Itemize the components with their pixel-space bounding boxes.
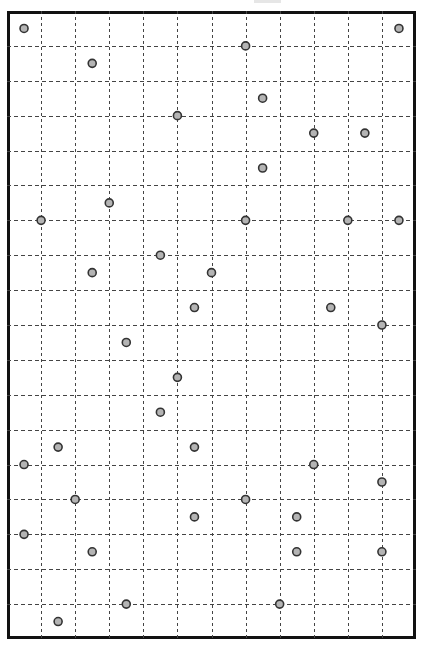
data-point [310, 129, 318, 137]
data-point [395, 216, 403, 224]
top-bar-artifact [254, 0, 281, 3]
data-point [54, 618, 62, 626]
data-point [156, 251, 164, 259]
data-point [259, 164, 267, 172]
grid-lines [7, 11, 416, 639]
data-point [190, 443, 198, 451]
data-point [173, 112, 181, 120]
scatter-plot-area [7, 11, 416, 639]
data-point [190, 513, 198, 521]
data-point [20, 530, 28, 538]
data-point [20, 461, 28, 469]
data-point [310, 461, 318, 469]
data-point [395, 24, 403, 32]
data-point [293, 513, 301, 521]
data-point [344, 216, 352, 224]
data-point [88, 59, 96, 67]
data-point [327, 304, 335, 312]
data-point [20, 24, 28, 32]
data-point [293, 548, 301, 556]
data-point [242, 495, 250, 503]
data-point [259, 94, 267, 102]
data-point [242, 42, 250, 50]
data-point [242, 216, 250, 224]
data-point [122, 600, 130, 608]
data-point [88, 269, 96, 277]
data-point [54, 443, 62, 451]
data-point [208, 269, 216, 277]
data-point [378, 548, 386, 556]
data-point [276, 600, 284, 608]
data-point [190, 304, 198, 312]
data-point [122, 338, 130, 346]
data-point [156, 408, 164, 416]
data-point [88, 548, 96, 556]
data-point [378, 478, 386, 486]
data-point [361, 129, 369, 137]
data-point [105, 199, 113, 207]
data-point [71, 495, 79, 503]
data-point [173, 373, 181, 381]
data-point [378, 321, 386, 329]
data-point [37, 216, 45, 224]
